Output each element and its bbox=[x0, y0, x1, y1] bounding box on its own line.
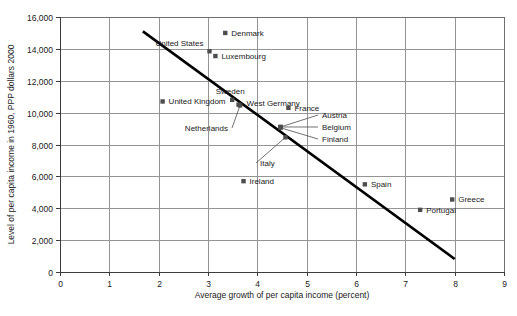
y-tick-label: 4,000 bbox=[32, 204, 54, 214]
x-tick-label: 2 bbox=[157, 279, 162, 289]
x-tick-label: 8 bbox=[453, 279, 458, 289]
chart-canvas: 02,0004,0006,0008,00010,00012,00014,0001… bbox=[0, 0, 517, 316]
y-tick-label: 10,000 bbox=[27, 109, 53, 119]
y-tick-label: 16,000 bbox=[27, 13, 53, 23]
data-point-portugal[interactable] bbox=[418, 208, 422, 212]
data-label-luxembourg: Luxembourg bbox=[221, 52, 265, 61]
data-point-sweden[interactable] bbox=[230, 98, 234, 102]
x-axis-title: Average growth of per capita income (per… bbox=[195, 290, 370, 300]
y-tick-label: 2,000 bbox=[32, 236, 54, 246]
x-tick-label: 3 bbox=[206, 279, 211, 289]
data-point-ireland[interactable] bbox=[241, 179, 245, 183]
data-label-austria: Austria bbox=[322, 111, 347, 120]
scatter-chart-figure: 02,0004,0006,0008,00010,00012,00014,0001… bbox=[0, 0, 517, 316]
data-label-netherlands: Netherlands bbox=[185, 124, 228, 133]
data-point-united-kingdom[interactable] bbox=[160, 99, 164, 103]
data-point-greece[interactable] bbox=[450, 197, 454, 201]
y-tick-label: 12,000 bbox=[27, 77, 53, 87]
data-label-portugal: Portugal bbox=[426, 206, 456, 215]
x-tick-label: 7 bbox=[403, 279, 408, 289]
y-tick-label: 8,000 bbox=[32, 141, 54, 151]
x-tick-label: 5 bbox=[305, 279, 310, 289]
data-label-belgium: Belgium bbox=[322, 123, 351, 132]
x-tick-label: 4 bbox=[255, 279, 260, 289]
data-label-france: France bbox=[294, 104, 319, 113]
data-point-italy[interactable] bbox=[283, 135, 287, 139]
data-point-france[interactable] bbox=[286, 106, 290, 110]
y-tick-label: 6,000 bbox=[32, 172, 54, 182]
data-label-italy: Italy bbox=[260, 159, 275, 168]
y-tick-label: 0 bbox=[48, 268, 53, 278]
y-tick-label: 14,000 bbox=[27, 45, 53, 55]
data-label-west-germany: West Germany bbox=[247, 99, 300, 108]
data-label-denmark: Denmark bbox=[231, 29, 264, 38]
leader-line-austria bbox=[281, 115, 318, 127]
data-label-united-states: United States bbox=[155, 39, 203, 48]
data-point-united-states[interactable] bbox=[207, 49, 211, 53]
leader-line-netherlands bbox=[232, 105, 240, 128]
data-label-greece: Greece bbox=[458, 195, 485, 204]
data-label-spain: Spain bbox=[371, 180, 391, 189]
y-axis-title: Level of per capita income in 1960, PPP … bbox=[6, 44, 16, 244]
data-label-finland: Finland bbox=[322, 135, 348, 144]
data-point-finland[interactable] bbox=[278, 126, 282, 130]
data-label-ireland: Ireland bbox=[250, 177, 274, 186]
x-tick-label: 6 bbox=[354, 279, 359, 289]
x-tick-label: 9 bbox=[502, 279, 507, 289]
data-point-luxembourg[interactable] bbox=[213, 54, 217, 58]
data-point-denmark[interactable] bbox=[223, 31, 227, 35]
x-tick-label: 1 bbox=[107, 279, 112, 289]
x-tick-label: 0 bbox=[58, 279, 63, 289]
data-label-united-kingdom: United Kingdom bbox=[169, 97, 226, 106]
data-label-sweden: Sweden bbox=[216, 87, 245, 96]
data-point-netherlands[interactable] bbox=[238, 103, 242, 107]
data-point-spain[interactable] bbox=[363, 182, 367, 186]
